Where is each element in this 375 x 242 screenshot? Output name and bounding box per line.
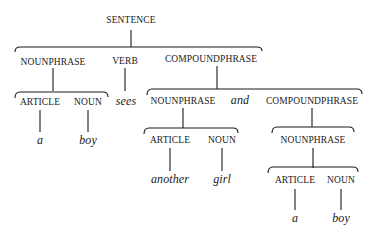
node-article: ARTICLE <box>275 174 315 186</box>
node-noun: NOUN <box>74 96 102 108</box>
node-nounphrase: NOUNPHRASE <box>151 95 216 107</box>
node-verb: VERB <box>112 55 138 67</box>
word-sees: sees <box>116 94 136 108</box>
word-and: and <box>231 93 249 107</box>
node-noun: NOUN <box>208 134 236 146</box>
parse-tree-diagram: SENTENCE NOUNPHRASE VERB COMPOUNDPHRASE … <box>0 0 375 242</box>
node-article: ARTICLE <box>150 134 190 146</box>
tree-edges <box>0 0 375 242</box>
node-compoundphrase: COMPOUNDPHRASE <box>266 95 358 107</box>
word-a: a <box>292 211 298 225</box>
node-noun: NOUN <box>327 174 355 186</box>
node-compoundphrase: COMPOUNDPHRASE <box>165 53 257 65</box>
node-sentence: SENTENCE <box>106 14 155 26</box>
word-boy: boy <box>332 211 350 225</box>
node-nounphrase: NOUNPHRASE <box>281 134 346 146</box>
node-nounphrase: NOUNPHRASE <box>21 56 86 68</box>
word-a: a <box>37 133 43 147</box>
word-girl: girl <box>213 172 231 186</box>
word-another: another <box>151 172 189 186</box>
node-article: ARTICLE <box>20 96 60 108</box>
word-boy: boy <box>79 133 97 147</box>
